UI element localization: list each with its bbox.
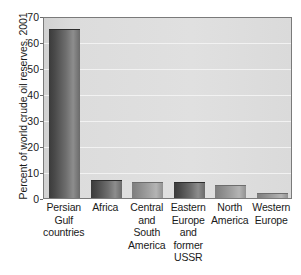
x-tick-label: Africa [82, 201, 130, 214]
x-tick-label: NorthAmerica [206, 201, 254, 226]
y-axis-ticks: 010203040506070 [0, 0, 39, 275]
y-tick-mark [40, 199, 43, 200]
x-tick-label-line: North [206, 201, 254, 214]
bar [49, 29, 80, 198]
x-tick-label-line: Africa [82, 201, 130, 214]
bar-chart: Percent of world crude oil reserves, 200… [0, 0, 301, 275]
bar [91, 180, 122, 198]
x-tick-label: EasternEuropeandformerUSSR [165, 201, 213, 264]
x-tick-label-line: Europe [165, 214, 213, 227]
x-tick-label-line: Persian [40, 201, 88, 214]
y-tick-label: 0 [3, 193, 39, 205]
bars-layer [44, 18, 291, 198]
y-tick-label: 40 [3, 89, 39, 101]
x-tick-label-line: USSR [165, 251, 213, 264]
x-tick-label-line: Western [248, 201, 296, 214]
x-tick-label-line: America [123, 239, 171, 252]
bar [257, 193, 288, 198]
y-tick-label: 70 [3, 11, 39, 23]
x-tick-label-line: Eastern [165, 201, 213, 214]
bar [215, 185, 246, 198]
bar [174, 182, 205, 198]
x-tick-label-line: former [165, 239, 213, 252]
x-tick-label-line: and [123, 214, 171, 227]
x-tick-label-line: and [165, 226, 213, 239]
y-tick-label: 30 [3, 115, 39, 127]
x-axis-labels: PersianGulfcountriesAfricaCentralandSout… [43, 201, 292, 275]
x-tick-label-line: America [206, 214, 254, 227]
x-tick-label: CentralandSouthAmerica [123, 201, 171, 251]
x-tick-label-line: Gulf [40, 214, 88, 227]
x-tick-label: PersianGulfcountries [40, 201, 88, 239]
x-tick-label-line: South [123, 226, 171, 239]
x-tick-label: WesternEurope [248, 201, 296, 226]
y-tick-label: 50 [3, 63, 39, 75]
y-tick-label: 10 [3, 167, 39, 179]
x-tick-label-line: Central [123, 201, 171, 214]
plot-area [43, 17, 292, 199]
x-tick-label-line: Europe [248, 214, 296, 227]
y-tick-label: 60 [3, 37, 39, 49]
bar [132, 182, 163, 198]
y-tick-label: 20 [3, 141, 39, 153]
x-tick-label-line: countries [40, 226, 88, 239]
